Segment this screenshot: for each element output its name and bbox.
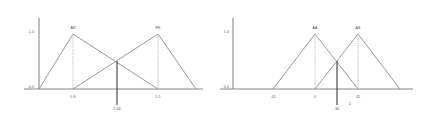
right-crisp-output-secondary-label: 1 bbox=[349, 103, 351, 107]
right-xtick-0: 0 bbox=[314, 96, 316, 100]
left-ytick-1.0: 1.0 bbox=[29, 31, 34, 35]
right-peak-label-AB: AB bbox=[356, 27, 361, 31]
left-chart-graphics bbox=[0, 0, 211, 127]
right-xtick-45: 45 bbox=[356, 96, 360, 100]
right-series-AB bbox=[315, 34, 400, 89]
left-peak-label-AR: AR bbox=[70, 27, 75, 31]
figure-canvas: 1.0 0.0 0.8 1.5 AR FR 1.04 1.0 bbox=[0, 0, 421, 127]
left-xtick-1.5: 1.5 bbox=[155, 96, 160, 100]
left-ytick-0.0: 0.0 bbox=[29, 86, 34, 90]
right-crisp-output-label: 30 bbox=[335, 108, 339, 112]
right-chart-graphics bbox=[210, 0, 421, 127]
left-crisp-output-label: 1.04 bbox=[113, 108, 120, 112]
right-peak-label-AA: AA bbox=[313, 27, 318, 31]
right-membership-chart: 1.0 0.0 -45 0 45 AA AB 30 1 bbox=[210, 0, 421, 127]
left-peak-label-FR: FR bbox=[156, 27, 161, 31]
right-ytick-1.0: 1.0 bbox=[224, 31, 229, 35]
left-xtick-0.8: 0.8 bbox=[70, 96, 75, 100]
left-series-FR bbox=[73, 34, 196, 89]
right-series-AA bbox=[273, 34, 358, 89]
right-xtick-minus45: -45 bbox=[270, 96, 276, 100]
left-series-AR bbox=[39, 34, 158, 89]
left-membership-chart: 1.0 0.0 0.8 1.5 AR FR 1.04 bbox=[0, 0, 211, 127]
right-ytick-0.0: 0.0 bbox=[224, 86, 229, 90]
